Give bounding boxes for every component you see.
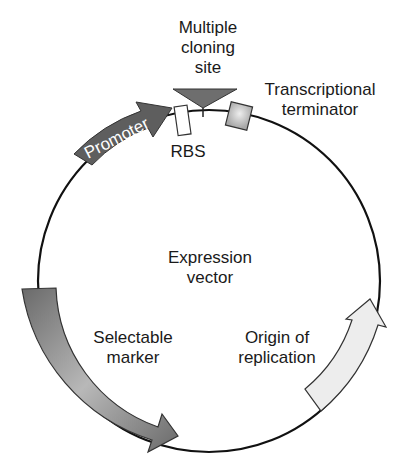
mcs-line-3: site xyxy=(158,58,258,78)
terminator-line-2: terminator xyxy=(250,100,390,120)
terminator-box xyxy=(225,102,252,131)
vector-title: Expression vector xyxy=(140,248,280,288)
rbs-box xyxy=(174,105,191,136)
origin-line-2: replication xyxy=(222,348,332,368)
title-line-2: vector xyxy=(140,268,280,288)
mcs-line-2: cloning xyxy=(158,38,258,58)
mcs-label: Multiple cloning site xyxy=(158,18,258,78)
mcs-line-1: Multiple xyxy=(158,18,258,38)
mcs-triangle xyxy=(173,89,237,108)
rbs-label: RBS xyxy=(168,142,208,162)
marker-line-2: marker xyxy=(78,348,188,368)
origin-line-1: Origin of xyxy=(222,328,332,348)
terminator-line-1: Transcriptional xyxy=(250,80,390,100)
origin-label: Origin of replication xyxy=(222,328,332,368)
marker-line-1: Selectable xyxy=(78,328,188,348)
title-line-1: Expression xyxy=(140,248,280,268)
selectable-marker-arrow xyxy=(22,288,178,452)
selectable-marker-label: Selectable marker xyxy=(78,328,188,368)
terminator-label: Transcriptional terminator xyxy=(250,80,390,120)
